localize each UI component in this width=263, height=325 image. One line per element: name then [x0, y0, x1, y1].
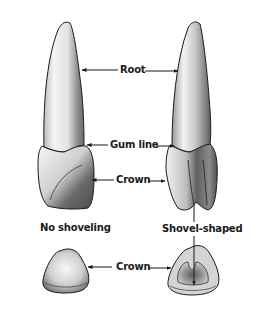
diagram-illustration — [0, 0, 263, 325]
shovel-shaped-caption: Shovel-shaped — [162, 223, 242, 235]
root-label: Root — [120, 64, 145, 76]
gum-line-label: Gum line — [110, 139, 158, 151]
crown-side-label: Crown — [116, 174, 151, 186]
no-shoveling-caption: No shoveling — [40, 222, 111, 234]
right-tooth-side-view — [166, 22, 217, 210]
tooth-comparison-diagram: Root Gum line Crown No shoveling Shovel-… — [0, 0, 263, 325]
crown-top-label: Crown — [116, 261, 151, 273]
right-crown-top-view — [168, 246, 219, 295]
left-crown-top-view — [43, 249, 89, 293]
left-tooth-side-view — [38, 22, 94, 209]
